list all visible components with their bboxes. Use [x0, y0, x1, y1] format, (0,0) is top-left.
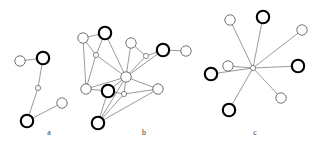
graph-node[interactable]: [21, 115, 33, 127]
graph-node[interactable]: [37, 52, 49, 64]
graph-node[interactable]: [297, 25, 307, 35]
graph-b-nodes: [78, 27, 191, 129]
graph-node[interactable]: [143, 53, 148, 58]
panel-label-a: a: [47, 128, 51, 137]
graph-node[interactable]: [81, 84, 91, 94]
panel-label-c: c: [253, 128, 257, 137]
graph-node[interactable]: [126, 38, 136, 48]
graph-canvas: abc: [0, 0, 320, 149]
graph-edge: [229, 68, 253, 110]
graph-node[interactable]: [225, 15, 235, 25]
graph-node[interactable]: [157, 44, 169, 56]
graph-node[interactable]: [35, 85, 40, 90]
graph-edge: [230, 20, 253, 68]
graph-a-nodes: [15, 52, 67, 127]
graph-node[interactable]: [292, 60, 304, 72]
graph-node[interactable]: [102, 85, 114, 97]
graph-edge: [83, 38, 86, 89]
graph-node[interactable]: [223, 104, 235, 116]
panel-label-b: b: [142, 128, 146, 137]
graph-node[interactable]: [257, 11, 269, 23]
panel-labels-layer: abc: [47, 128, 257, 137]
graph-edge: [253, 17, 263, 68]
graph-edge: [105, 33, 126, 77]
graph-node[interactable]: [121, 91, 126, 96]
graph-node[interactable]: [15, 56, 25, 66]
graph-node[interactable]: [57, 98, 67, 108]
graph-node[interactable]: [93, 52, 98, 57]
graph-node[interactable]: [250, 65, 255, 70]
graph-node[interactable]: [92, 117, 104, 129]
graph-node[interactable]: [276, 93, 286, 103]
graph-edge: [253, 68, 281, 98]
graph-node[interactable]: [205, 68, 217, 80]
graph-figure: abc: [0, 0, 320, 149]
graph-node[interactable]: [78, 33, 88, 43]
graph-a-edges: [20, 58, 62, 121]
graph-c-nodes: [205, 11, 307, 116]
graph-node[interactable]: [153, 84, 163, 94]
graph-node[interactable]: [121, 72, 131, 82]
graph-node[interactable]: [99, 27, 111, 39]
graph-node[interactable]: [181, 46, 191, 56]
nodes-layer: [15, 11, 307, 129]
graph-node[interactable]: [223, 61, 233, 71]
